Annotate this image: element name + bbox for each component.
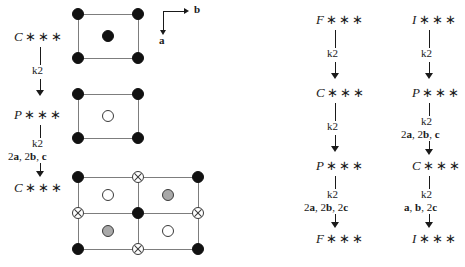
axes-indicator: b a [163,11,209,45]
axis-a-line [163,11,164,30]
left-chain-node-2-letter: P [14,107,22,122]
middle-arrow-3-basis: 2a, 2b, 2c [304,201,348,213]
middle-chain-node-1-stars: ∗∗∗ [326,12,365,27]
right-chain-node-1-letter: I [412,12,417,27]
right-arrow-1-head [425,62,434,80]
left-chain-node-3-letter: C [14,180,23,195]
lattice-point-filled [72,132,84,144]
middle-chain-node-2: C∗∗∗ [316,85,366,101]
right-chain-node-4: I∗∗∗ [412,231,458,247]
lattice-point-open-centre [102,110,114,122]
lattice-point-filled [132,132,144,144]
lattice-point-grey [102,225,114,237]
right-chain-node-3-letter: C [412,158,421,173]
lattice-point-filled [192,171,204,183]
right-chain-node-2-stars: ∗∗∗ [422,85,461,100]
lattice-point-filled [72,52,84,64]
right-arrow-1-index: k2 [421,47,432,59]
left-arrow-1-head [36,79,45,97]
lattice-point-crossed [192,207,204,219]
lattice-point-open [102,189,114,201]
left-arrow-2-head [36,163,45,177]
lattice-point-filled [132,52,144,64]
right-chain-node-1: I∗∗∗ [412,12,458,28]
right-chain-node-4-stars: ∗∗∗ [419,231,458,246]
middle-chain-node-1: F∗∗∗ [316,12,365,28]
lattice-point-open [162,225,174,237]
left-arrow-2-basis: 2a, 2b, c [8,150,47,162]
right-arrow-3-basis: a, b, 2c [404,201,437,213]
lattice-point-filled-centre [102,30,114,42]
lattice-point-filled [72,171,84,183]
middle-arrow-3-head [331,214,340,228]
lattice-point-crossed [72,207,84,219]
middle-chain-node-1-letter: F [316,12,324,27]
middle-chain-node-4-stars: ∗∗∗ [326,231,365,246]
axis-b-label: b [194,3,200,15]
right-arrow-2-head [425,141,434,155]
middle-arrow-1-index: k2 [327,47,338,59]
middle-chain-node-3-stars: ∗∗∗ [326,158,365,173]
middle-chain-node-2-letter: C [316,85,325,100]
right-arrow-2-index: k2 [421,115,432,127]
right-arrow-3-index: k2 [421,188,432,200]
right-chain-node-1-stars: ∗∗∗ [419,12,458,27]
lattice-point-filled [72,8,84,20]
axis-b-arrowhead [184,8,189,14]
cell2-edge-bottom [78,138,138,139]
left-chain-node-2: P∗∗∗ [14,107,63,123]
middle-arrow-2-head [331,135,340,153]
right-chain-node-3-stars: ∗∗∗ [423,158,462,173]
middle-chain-node-3: P∗∗∗ [316,158,365,174]
right-chain-node-2: P∗∗∗ [412,85,461,101]
cell1-edge-bottom [78,58,138,59]
right-chain-node-4-letter: I [412,231,417,246]
lattice-point-filled [132,207,144,219]
cell1-edge-top [78,14,138,15]
unit-cell-primitive [78,94,138,138]
left-arrow-1-index: k2 [32,64,43,76]
lattice-point-grey [162,189,174,201]
left-arrow-1-upper-stem [40,47,41,65]
lattice-point-filled [192,243,204,255]
middle-chain-node-4-letter: F [316,231,324,246]
lattice-point-filled [72,88,84,100]
middle-arrow-1-upper-stem [335,30,336,48]
middle-chain-node-3-letter: P [316,158,324,173]
axis-b-line [163,11,184,12]
right-arrow-2-basis: 2a, 2b, c [401,128,440,140]
right-arrow-3-head [425,214,434,228]
right-chain-node-3: C∗∗∗ [412,158,462,174]
left-chain-node-2-stars: ∗∗∗ [24,107,63,122]
middle-arrow-3-index: k2 [327,188,338,200]
left-chain-node-3: C∗∗∗ [14,180,64,196]
middle-arrow-2-index: k2 [327,120,338,132]
lattice-point-crossed [132,171,144,183]
left-arrow-2-index: k2 [32,137,43,149]
left-chain-node-1: C∗∗∗ [14,29,64,45]
unit-cell-c-centred [78,14,138,58]
lattice-point-crossed [132,243,144,255]
unit-cell-supercell [78,177,198,249]
middle-arrow-1-head [331,62,340,80]
middle-arrow-2-upper-stem [335,103,336,121]
lattice-point-filled [72,243,84,255]
lattice-point-filled [132,88,144,100]
left-chain-node-1-stars: ∗∗∗ [25,29,64,44]
right-arrow-1-upper-stem [429,30,430,48]
axis-a-label: a [159,34,165,46]
lattice-point-filled [132,8,144,20]
left-chain-node-1-letter: C [14,29,23,44]
right-chain-node-2-letter: P [412,85,420,100]
middle-chain-node-4: F∗∗∗ [316,231,365,247]
left-chain-node-3-stars: ∗∗∗ [25,180,64,195]
cell2-edge-top [78,94,138,95]
middle-chain-node-2-stars: ∗∗∗ [327,85,366,100]
